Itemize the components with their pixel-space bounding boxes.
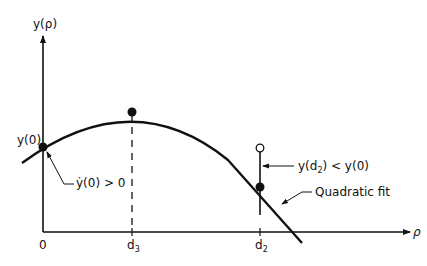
- quadratic-fit-diagram: [0, 0, 427, 266]
- y-axis-label: y(ρ): [33, 18, 57, 30]
- y0-label: y(0): [17, 134, 41, 146]
- curve-label: Quadratic fit: [315, 186, 390, 198]
- open-point-d2: [256, 144, 264, 152]
- x-tick-0: 0: [39, 239, 47, 251]
- peak-point: [128, 108, 137, 117]
- x-tick-d2: d2: [255, 239, 268, 251]
- fit-point-d2: [256, 183, 265, 192]
- slope-label: ẏ(0) > 0: [76, 177, 125, 189]
- x-axis-label: ρ: [413, 226, 421, 238]
- x-tick-d3: d3: [127, 239, 140, 251]
- comparison-label: y(d2) < y(0): [298, 160, 369, 172]
- curve-leader-arrow: [282, 192, 312, 204]
- slope-leader-arrow: [47, 152, 74, 184]
